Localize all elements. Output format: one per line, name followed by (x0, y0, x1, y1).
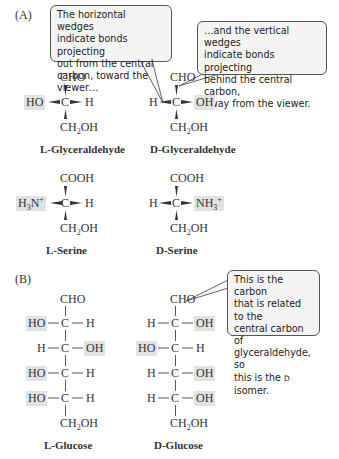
left-group-highlighted: HO (136, 341, 157, 356)
carbon: C (61, 316, 69, 331)
top-group: CHO (170, 292, 195, 307)
left-group: H (149, 95, 158, 110)
top-group: CHO (170, 70, 195, 85)
callout-vertical-wedges: …and the vertical wedges indicate bonds … (197, 21, 327, 75)
molecule-name: L-Glyceraldehyde (40, 143, 125, 155)
top-group: CHO (60, 292, 85, 307)
right-group-highlighted: OH (194, 95, 215, 110)
right-group: H (85, 95, 94, 110)
right-group-highlighted: NH3+ (194, 196, 224, 211)
top-group: COOH (170, 171, 204, 186)
callout-line: glyceraldehyde, so (234, 347, 313, 371)
callout-line: central carbon of (234, 323, 313, 347)
right-group: H (85, 196, 94, 211)
right-group: H (86, 391, 95, 406)
left-group: H (37, 341, 46, 356)
top-group: COOH (60, 171, 94, 186)
callout-line: The horizontal wedges (57, 9, 165, 33)
carbon: C (61, 391, 69, 406)
right-group: H (86, 366, 95, 381)
carbon: C (61, 341, 69, 356)
bottom-group: CH2OH (170, 221, 208, 236)
bottom-group: CH2OH (60, 416, 98, 431)
molecule-name: D-Serine (156, 244, 198, 256)
left-group-highlighted: HO (24, 95, 45, 110)
right-group-highlighted: OH (194, 391, 215, 406)
carbon: C (171, 366, 179, 381)
carbon: C (171, 391, 179, 406)
callout-line: away from the viewer. (204, 98, 320, 110)
molecule-name: L-Serine (46, 244, 87, 256)
central-carbon: C (172, 196, 180, 211)
right-group: H (86, 316, 95, 331)
callout-line: out from the central (57, 58, 165, 70)
callout-line: this is the D isomer. (234, 372, 313, 397)
left-group-highlighted: HO (26, 316, 47, 331)
molecule-name: D-Glucose (154, 439, 203, 451)
bottom-group: CH2OH (60, 120, 98, 135)
central-carbon: C (172, 95, 180, 110)
callout-line: This is the carbon (234, 274, 313, 298)
central-carbon: C (61, 95, 69, 110)
callout-line: that is related to the (234, 298, 313, 322)
callout-line: indicate bonds projecting (57, 33, 165, 57)
left-group: H (147, 366, 156, 381)
central-carbon: C (61, 196, 69, 211)
carbon: C (171, 341, 179, 356)
callout-line: behind the central carbon, (204, 74, 320, 98)
left-group: H (147, 316, 156, 331)
right-group-highlighted: OH (84, 341, 105, 356)
right-group-highlighted: OH (194, 366, 215, 381)
bottom-group: CH2OH (170, 120, 208, 135)
bottom-group: CH2OH (170, 416, 208, 431)
bottom-group: CH2OH (60, 221, 98, 236)
callout-d-isomer-carbon: This is the carbon that is related to th… (227, 270, 320, 336)
left-group-highlighted: H3N+ (16, 196, 46, 211)
top-group: CHO (60, 70, 85, 85)
left-group-highlighted: HO (26, 366, 47, 381)
molecule-name: D-Glyceraldehyde (150, 143, 236, 155)
carbon-related-to-glyceraldehyde: C (171, 316, 179, 331)
left-group: H (149, 196, 158, 211)
callout-line: …and the vertical wedges (204, 25, 320, 49)
callout-horizontal-wedges: The horizontal wedges indicate bonds pro… (50, 5, 172, 62)
left-group: H (147, 391, 156, 406)
molecule-name: L-Glucose (44, 439, 92, 451)
callout-line: indicate bonds projecting (204, 49, 320, 73)
right-group: H (196, 341, 205, 356)
right-group-highlighted: OH (194, 316, 215, 331)
left-group-highlighted: HO (26, 391, 47, 406)
carbon: C (61, 366, 69, 381)
